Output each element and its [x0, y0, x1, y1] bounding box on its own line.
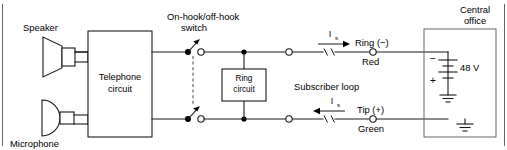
hook-switch-pole-top[interactable] — [185, 39, 204, 55]
telephone-circuit-label-line1: Telephone — [99, 72, 141, 82]
central-office-label-line2: office — [464, 15, 486, 26]
microphone-label: Microphone — [10, 138, 59, 149]
tip-current-arrow — [313, 108, 345, 114]
speaker-icon — [43, 37, 75, 77]
microphone-leads — [74, 115, 88, 124]
battery-voltage-label: 48 V — [460, 62, 480, 73]
subscriber-loop-label: Subscriber loop — [294, 81, 359, 92]
tip-current-subscript: s — [337, 101, 340, 108]
tip-terminal-label: Tip (+) — [357, 104, 384, 115]
speaker-label: Speaker — [23, 22, 58, 33]
tip-current-symbol: I — [331, 96, 334, 106]
tip-line-span — [244, 116, 448, 123]
battery-negative-sign: − — [430, 53, 436, 64]
ring-current-arrow — [318, 41, 350, 47]
battery-positive-sign: + — [430, 75, 436, 86]
ring-circuit-label-line2: circuit — [233, 85, 255, 94]
telephone-circuit-label-line2: circuit — [108, 84, 132, 94]
central-office-tip-ground — [457, 119, 473, 131]
hook-switch-label-line2: switch — [181, 22, 207, 33]
telephone-circuit-diagram: Speaker Microphone Telephone circui — [0, 0, 507, 150]
ring-wire-color-label: Red — [362, 56, 379, 67]
ring-line-span — [244, 49, 448, 56]
ring-current-subscript: s — [335, 34, 338, 41]
ring-terminal-label: Ring (−) — [355, 37, 389, 48]
speaker-leads — [75, 52, 88, 62]
ring-current-symbol: I — [329, 29, 332, 39]
tip-wire-color-label: Green — [358, 123, 384, 134]
diagram-canvas: Speaker Microphone Telephone circui — [0, 0, 507, 150]
hook-switch-pole-bottom[interactable] — [185, 106, 204, 122]
central-office-battery — [439, 52, 457, 102]
microphone-icon — [42, 100, 74, 136]
central-office-label-line1: Central — [460, 4, 490, 15]
hook-switch-label-line1: On-hook/off-hook — [167, 11, 240, 22]
ring-circuit-label-line1: Ring — [236, 74, 253, 83]
